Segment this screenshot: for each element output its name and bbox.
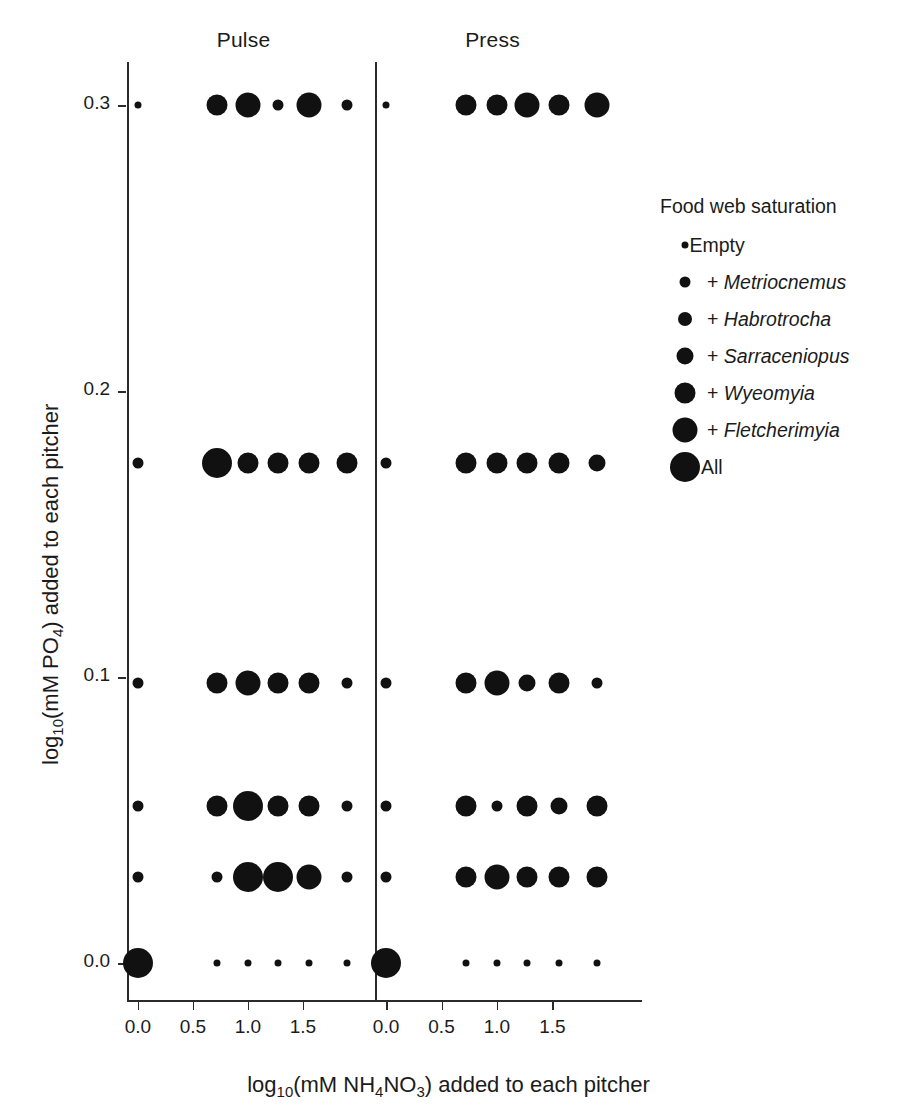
- data-point: [267, 672, 288, 693]
- legend-label: + Fletcherimyia: [707, 419, 840, 442]
- x-tick-press-0: [386, 1002, 388, 1010]
- data-point: [462, 960, 469, 967]
- data-point: [207, 95, 228, 116]
- x-tick-label-press-1: 0.5: [412, 1016, 472, 1038]
- data-point: [207, 672, 228, 693]
- y-tick-label-1: 0.1: [32, 664, 110, 686]
- data-point: [267, 795, 288, 816]
- x-tick-press-1: [442, 1002, 444, 1010]
- data-point: [274, 960, 281, 967]
- data-point: [516, 867, 537, 888]
- data-point: [551, 797, 568, 814]
- legend-swatch-icon: [673, 418, 698, 443]
- data-point: [132, 800, 143, 811]
- data-point: [371, 948, 401, 978]
- data-point: [455, 95, 476, 116]
- x-tick-press-2: [497, 1002, 499, 1010]
- x-axis-line-press: [375, 1000, 642, 1002]
- data-point: [381, 677, 392, 688]
- data-point: [455, 672, 476, 693]
- legend-swatch-icon: [682, 242, 689, 249]
- data-point: [516, 795, 537, 816]
- data-point: [381, 872, 392, 883]
- data-point: [272, 100, 283, 111]
- x-tick-pulse-1: [193, 1002, 195, 1010]
- legend: Food web saturation Empty+ Metriocnemus+…: [655, 195, 895, 495]
- data-point: [455, 867, 476, 888]
- data-point: [549, 672, 570, 693]
- data-point: [202, 448, 232, 478]
- legend-item-metriocnemus: + Metriocnemus: [655, 265, 895, 299]
- legend-label: All: [701, 456, 723, 479]
- data-point: [516, 452, 537, 473]
- x-tick-label-press-0: 0.0: [356, 1016, 416, 1038]
- x-tick-label-pulse-0: 0.0: [108, 1016, 168, 1038]
- y-tick-1: [118, 677, 126, 679]
- y-tick-2: [118, 391, 126, 393]
- legend-item-empty: Empty: [655, 228, 895, 262]
- legend-label: + Wyeomyia: [707, 382, 815, 405]
- data-point: [233, 862, 263, 892]
- legend-swatch-icon: [670, 452, 700, 482]
- data-point: [123, 948, 153, 978]
- data-point: [484, 865, 509, 890]
- legend-item-wyeomyia: + Wyeomyia: [655, 376, 895, 410]
- scatter-figure: Pulse Press log10(mM PO4) added to each …: [0, 0, 897, 1119]
- legend-swatch-icon: [677, 348, 694, 365]
- y-tick-3: [118, 105, 126, 107]
- legend-label: + Sarraceniopus: [707, 345, 850, 368]
- data-point: [381, 800, 392, 811]
- data-point: [336, 452, 357, 473]
- data-point: [244, 960, 251, 967]
- data-point: [383, 102, 390, 109]
- x-tick-label-pulse-2: 1.0: [218, 1016, 278, 1038]
- data-point: [299, 672, 320, 693]
- legend-item-habrotrocha: + Habrotrocha: [655, 302, 895, 336]
- legend-label: + Habrotrocha: [707, 308, 831, 331]
- data-point: [591, 677, 602, 688]
- data-point: [584, 93, 609, 118]
- data-point: [297, 93, 322, 118]
- legend-item-fletcherimyia: + Fletcherimyia: [655, 413, 895, 447]
- data-point: [491, 800, 502, 811]
- x-tick-label-pulse-3: 1.5: [273, 1016, 333, 1038]
- data-point: [455, 452, 476, 473]
- legend-label: Empty: [690, 234, 745, 257]
- data-point: [132, 872, 143, 883]
- data-point: [518, 674, 535, 691]
- data-point: [341, 677, 352, 688]
- y-axis-title: log10(mM PO4) added to each pitcher: [38, 404, 64, 765]
- data-point: [263, 862, 293, 892]
- data-point: [486, 452, 507, 473]
- data-point: [486, 95, 507, 116]
- legend-label: + Metriocnemus: [707, 271, 846, 294]
- panel-title-pulse: Pulse: [127, 28, 360, 52]
- data-point: [235, 670, 260, 695]
- data-point: [549, 95, 570, 116]
- data-point: [235, 93, 260, 118]
- x-tick-press-3: [552, 1002, 554, 1010]
- data-point: [299, 452, 320, 473]
- data-point: [297, 865, 322, 890]
- data-point: [299, 795, 320, 816]
- legend-item-sarraceniopus: + Sarraceniopus: [655, 339, 895, 373]
- legend-swatch-icon: [675, 383, 696, 404]
- data-point: [549, 867, 570, 888]
- legend-swatch-icon: [678, 312, 692, 326]
- data-point: [233, 791, 263, 821]
- data-point: [549, 452, 570, 473]
- x-axis-line-pulse: [127, 1000, 392, 1002]
- x-axis-title: log10(mM NH4NO3) added to each pitcher: [0, 1072, 897, 1098]
- data-point: [484, 670, 509, 695]
- panel-title-press: Press: [375, 28, 610, 52]
- data-point: [267, 452, 288, 473]
- x-tick-label-pulse-1: 0.5: [163, 1016, 223, 1038]
- data-point: [343, 960, 350, 967]
- x-tick-pulse-0: [138, 1002, 140, 1010]
- x-tick-label-press-2: 1.0: [467, 1016, 527, 1038]
- data-point: [212, 872, 223, 883]
- x-tick-pulse-2: [248, 1002, 250, 1010]
- data-point: [588, 454, 605, 471]
- data-point: [586, 867, 607, 888]
- y-axis-line-press: [375, 62, 377, 1000]
